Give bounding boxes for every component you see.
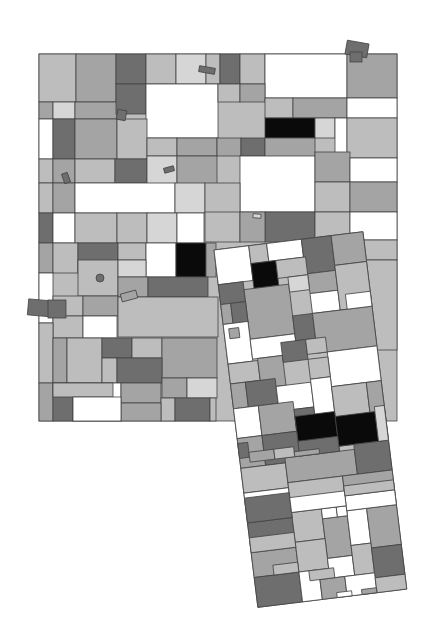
mosaic-tile [83, 316, 117, 338]
rotated-panel-tile [244, 284, 295, 339]
rotated-panel-tile [336, 506, 347, 517]
rotated-panel-tile [292, 509, 325, 542]
mosaic-tile [67, 338, 102, 383]
mosaic-tile [75, 183, 175, 213]
mosaic-tile [148, 277, 208, 297]
mosaic-tile [121, 383, 161, 403]
abstract-mosaic-artwork [0, 0, 424, 639]
mosaic-tile [265, 98, 293, 118]
mosaic-tile [147, 138, 177, 156]
rotated-panel-tile [295, 539, 328, 572]
mosaic-tile [218, 84, 240, 102]
floating-chip [48, 300, 66, 318]
mosaic-tile [146, 84, 218, 138]
rotated-panel-tile [367, 505, 402, 548]
mosaic-tile [206, 243, 216, 277]
mosaic-tile [205, 212, 240, 242]
mosaic-tile [265, 138, 315, 158]
mosaic-tile [175, 398, 210, 421]
mosaic-tile [117, 213, 147, 243]
mosaic-tile [53, 119, 75, 159]
mosaic-tile [220, 54, 240, 84]
mosaic-tile [347, 118, 397, 158]
mosaic-tile [146, 54, 176, 84]
mosaic-tile [53, 338, 67, 383]
mosaic-tile [39, 383, 53, 421]
mosaic-tile [117, 119, 147, 159]
mosaic-tile [240, 54, 265, 84]
mosaic-tile [217, 138, 241, 156]
floating-chip [253, 214, 261, 219]
mosaic-tile [117, 358, 162, 383]
rotated-panel-tile [308, 270, 338, 293]
rotated-panel-tile [335, 412, 378, 447]
rotated-panel-tile [371, 544, 404, 577]
rotated-panel-tile [229, 328, 240, 339]
rotated-panel-tile [218, 282, 245, 305]
rotated-panel-tile [306, 337, 328, 354]
rotated-panel-tile [308, 357, 330, 379]
mosaic-tile [177, 138, 217, 156]
mosaic-tile [102, 338, 132, 358]
mosaic-tile [177, 213, 204, 243]
mosaic-tile [265, 118, 315, 138]
mosaic-tile [53, 383, 113, 397]
rotated-panel-tile [214, 246, 253, 285]
rotated-panel-tile [274, 447, 295, 459]
rotated-panel-tile [351, 543, 375, 575]
mosaic-tile [39, 159, 53, 183]
mosaic-tile [175, 183, 205, 213]
floating-chip [116, 109, 127, 120]
mosaic-tile [53, 213, 75, 243]
rotated-panel-tile [228, 360, 260, 384]
rotated-panel-tile [331, 232, 366, 266]
rotated-panel-tile [233, 406, 261, 439]
mosaic-tile [162, 338, 217, 378]
mosaic-tile [265, 54, 347, 98]
mosaic-tile [75, 213, 117, 243]
mosaic-tile [39, 102, 53, 119]
mosaic-tile [118, 260, 146, 277]
rotated-panel-tile [251, 261, 279, 289]
mosaic-tile [39, 119, 53, 159]
rotated-panel-tile [254, 572, 302, 607]
mosaic-tile [210, 398, 216, 421]
mosaic-tile [75, 102, 117, 119]
mosaic-tile [39, 183, 53, 213]
mosaic-tile [240, 156, 315, 212]
mosaic-tile [161, 398, 175, 421]
mosaic-tile [118, 243, 146, 260]
mosaic-tile [53, 316, 83, 338]
rotated-panel-tile [244, 493, 292, 523]
mosaic-tile [205, 183, 240, 213]
rotated-panel-tile [327, 346, 381, 387]
mosaic-tile [83, 296, 118, 316]
floating-chip [350, 52, 362, 62]
mosaic-tile [75, 159, 115, 183]
rotated-panel-tile [293, 313, 316, 340]
rotated-panel-tile [249, 244, 269, 264]
mosaic-tile [176, 243, 206, 277]
mosaic-tile [39, 213, 53, 243]
mosaic-tile [350, 158, 397, 182]
mosaic-tile [53, 183, 75, 213]
mosaic-tile [76, 54, 116, 102]
hexagon-marker [96, 274, 104, 282]
mosaic-tile [53, 243, 78, 273]
mosaic-tile [350, 182, 397, 212]
mosaic-tile [315, 118, 335, 138]
mosaic-tile [177, 156, 217, 184]
rotated-panel-tile [288, 275, 310, 292]
rotated-panel-tile [238, 442, 250, 458]
rotated-panel-tile [375, 574, 407, 593]
rotated-panel-tile [281, 340, 308, 363]
rotated-panel-tile [310, 290, 340, 313]
mosaic-tile [73, 397, 121, 421]
mosaic-tile [102, 358, 117, 383]
mosaic-tile [39, 323, 53, 383]
mosaic-tile [187, 378, 217, 398]
mosaic-tile [162, 378, 187, 398]
mosaic-tile [53, 102, 75, 119]
mosaic-tile [115, 159, 147, 183]
mosaic-tile [132, 338, 162, 358]
